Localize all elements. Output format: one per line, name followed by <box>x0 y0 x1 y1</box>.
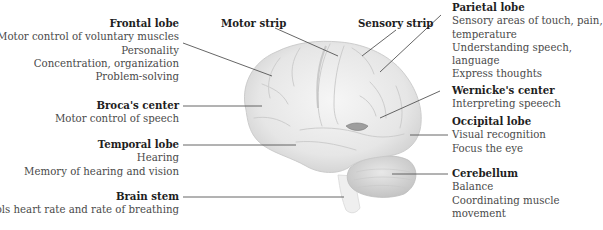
frontal-lobe-desc-3: Concentration, organization <box>0 57 179 70</box>
label-brain-stem: Brain stem Controls heart rate and rate … <box>0 190 179 217</box>
temporal-lobe-desc-1: Hearing <box>24 151 179 164</box>
label-parietal-lobe: Parietal lobe Sensory areas of touch, pa… <box>452 1 603 81</box>
motor-strip-title: Motor strip <box>221 17 286 30</box>
brocas-center-title: Broca's center <box>55 99 179 112</box>
wernickes-center-title: Wernicke's center <box>452 84 561 97</box>
label-occipital-lobe: Occipital lobe Visual recognition Focus … <box>452 115 546 155</box>
cerebellum-desc-3: movement <box>452 207 559 220</box>
label-temporal-lobe: Temporal lobe Hearing Memory of hearing … <box>24 138 179 178</box>
occipital-lobe-title: Occipital lobe <box>452 115 546 128</box>
leader-frontal-lobe <box>183 43 272 76</box>
parietal-lobe-desc-1: Sensory areas of touch, pain, <box>452 14 603 27</box>
cerebellum-desc-1: Balance <box>452 180 559 193</box>
parietal-lobe-desc-3: Understanding speech, <box>452 41 603 54</box>
label-wernickes-center: Wernicke's center Interpreting speeech <box>452 84 561 111</box>
temporal-lobe-desc-2: Memory of hearing and vision <box>24 165 179 178</box>
wernickes-center-desc-1: Interpreting speeech <box>452 97 561 110</box>
parietal-lobe-desc-4: language <box>452 54 603 67</box>
frontal-lobe-title: Frontal lobe <box>0 17 179 30</box>
label-brocas-center: Broca's center Motor control of speech <box>55 99 179 126</box>
parietal-lobe-desc-2: temperature <box>452 28 603 41</box>
label-motor-strip: Motor strip <box>221 17 286 30</box>
temporal-lobe-title: Temporal lobe <box>24 138 179 151</box>
brain-stem-desc-1: Controls heart rate and rate of breathin… <box>0 203 179 216</box>
cerebellum-title: Cerebellum <box>452 167 559 180</box>
cerebellum-desc-2: Coordinating muscle <box>452 194 559 207</box>
brain-stem-title: Brain stem <box>0 190 179 203</box>
label-cerebellum: Cerebellum Balance Coordinating muscle m… <box>452 167 559 220</box>
brocas-center-desc-1: Motor control of speech <box>55 112 179 125</box>
occipital-lobe-desc-2: Focus the eye <box>452 142 546 155</box>
frontal-lobe-desc-4: Problem-solving <box>0 70 179 83</box>
sensory-strip-title: Sensory strip <box>358 17 433 30</box>
cerebrum-shape <box>244 41 421 172</box>
frontal-lobe-desc-1: Motor control of voluntary muscles <box>0 30 179 43</box>
parietal-lobe-desc-5: Express thoughts <box>452 67 603 80</box>
leader-sensory-strip <box>362 30 396 56</box>
label-frontal-lobe: Frontal lobe Motor control of voluntary … <box>0 17 179 83</box>
parietal-lobe-title: Parietal lobe <box>452 1 603 14</box>
label-sensory-strip: Sensory strip <box>358 17 433 30</box>
occipital-lobe-desc-1: Visual recognition <box>452 128 546 141</box>
frontal-lobe-desc-2: Personality <box>0 44 179 57</box>
